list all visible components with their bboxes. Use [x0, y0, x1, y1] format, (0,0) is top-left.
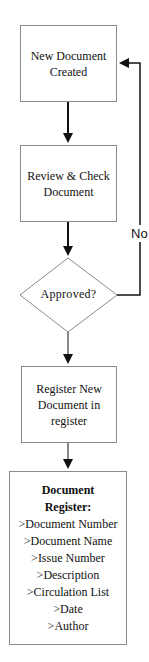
node-label-line: register	[51, 413, 87, 429]
register-field: >Document Name	[24, 533, 112, 550]
node-document-register: Document Register: >Document Number >Doc…	[9, 471, 127, 645]
node-label-line: Document	[44, 184, 94, 200]
register-field: >Document Number	[18, 516, 117, 533]
register-field: >Date	[53, 601, 82, 618]
node-label-line: Register New	[36, 381, 102, 397]
register-title-line: Register:	[45, 499, 92, 516]
node-review-check-document: Review & Check Document	[20, 145, 117, 222]
register-title-line: Document	[42, 482, 95, 499]
register-field: >Description	[37, 567, 100, 584]
node-label-line: New Document	[31, 48, 107, 64]
node-register-new-document: Register New Document in register	[21, 366, 117, 443]
register-field: >Issue Number	[31, 550, 105, 567]
register-field: >Circulation List	[27, 584, 109, 601]
register-field: >Author	[48, 618, 89, 635]
arrow-no-loop	[117, 63, 140, 295]
no-edge-label: No	[131, 225, 148, 242]
decision-label: Approved?	[20, 287, 117, 302]
node-label-line: Created	[50, 64, 87, 80]
node-new-document-created: New Document Created	[20, 25, 117, 102]
node-label-line: Document in	[38, 397, 100, 413]
node-label-line: Review & Check	[27, 168, 110, 184]
